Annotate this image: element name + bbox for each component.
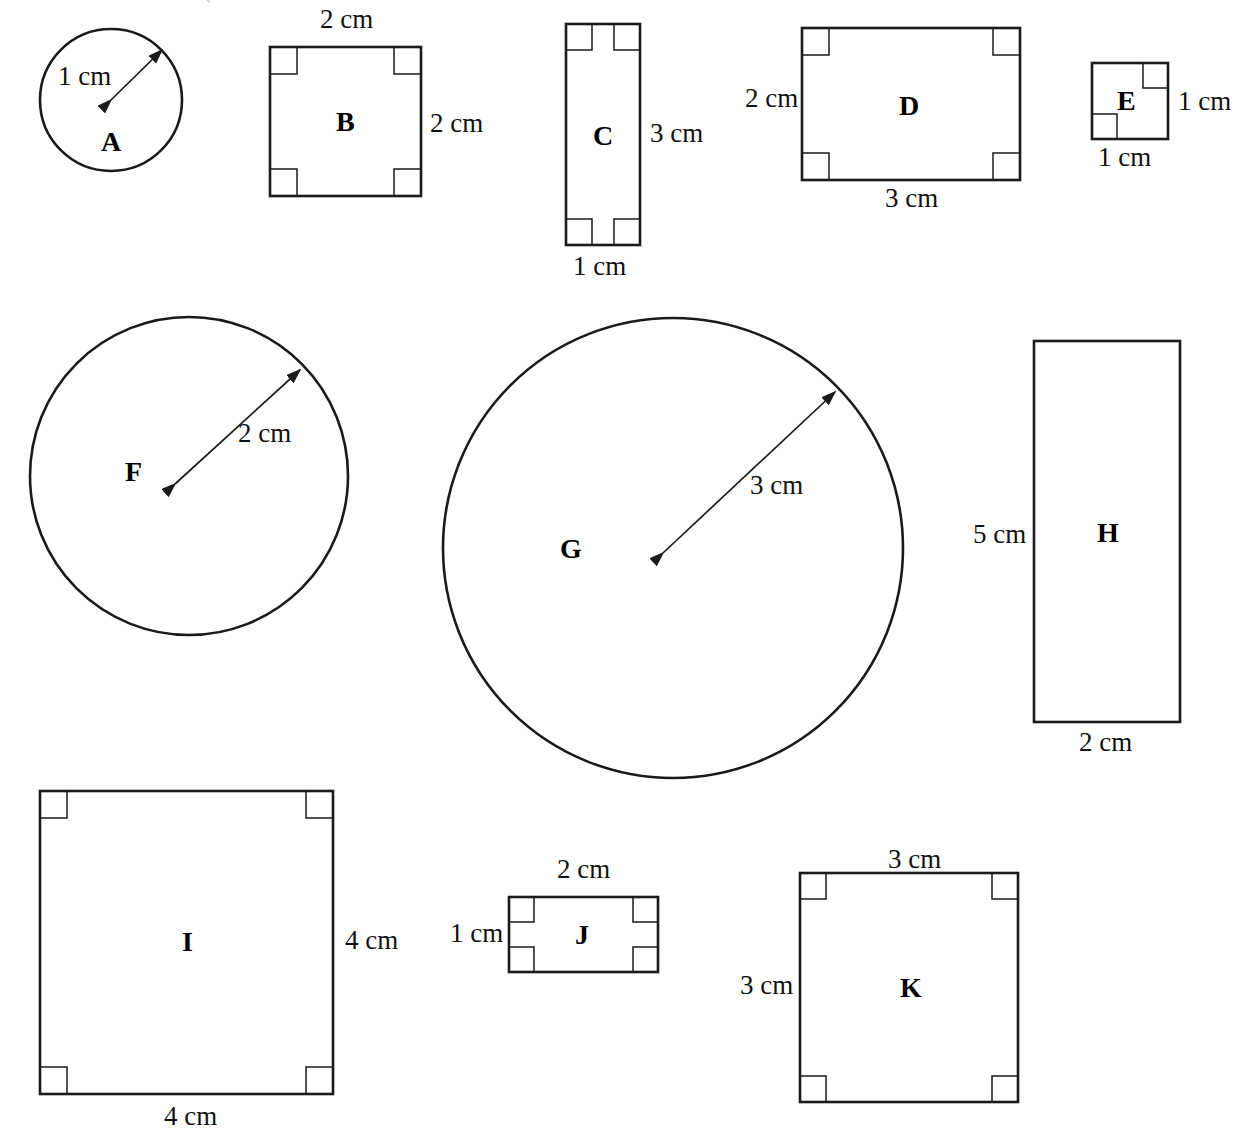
dimension-e-right: 1 cm xyxy=(1178,88,1231,115)
dimension-b-right: 2 cm xyxy=(430,110,483,137)
shape-label-b: B xyxy=(336,108,355,136)
shape-b-right-angle-tl xyxy=(270,47,297,74)
shape-label-g: G xyxy=(560,535,582,563)
shape-label-i: I xyxy=(182,928,193,956)
dimension-j-top: 2 cm xyxy=(557,856,610,883)
shape-c-right-angle-tr xyxy=(614,24,640,50)
shape-label-k: K xyxy=(900,974,922,1002)
shape-j-right-angle-bl xyxy=(509,947,534,972)
shape-j-right-angle-tr xyxy=(633,897,658,922)
shape-i-right-angle-br xyxy=(306,1067,333,1094)
dimension-k-left: 3 cm xyxy=(740,972,793,999)
shape-i-right-angle-tr xyxy=(306,791,333,818)
shape-d-right-angle-bl xyxy=(802,153,829,180)
shape-g-radius-arrow xyxy=(663,392,835,553)
shape-d-right-angle-br xyxy=(993,153,1020,180)
shape-k-right-angle-bl xyxy=(800,1076,826,1102)
shape-i-right-angle-bl xyxy=(40,1067,67,1094)
shape-label-a: A xyxy=(101,128,121,156)
dimension-c-bottom: 1 cm xyxy=(573,253,626,280)
shape-b-right-angle-tr xyxy=(394,47,421,74)
shape-figures-layer xyxy=(0,0,1247,1141)
shape-c-right-angle-bl xyxy=(566,219,592,245)
dimension-b-top: 2 cm xyxy=(320,6,373,33)
shape-i-right-angle-tl xyxy=(40,791,67,818)
shape-b-right-angle-br xyxy=(394,169,421,196)
dimension-h-bottom: 2 cm xyxy=(1079,729,1132,756)
shape-label-c: C xyxy=(593,122,613,150)
dimension-a-radius: 1 cm xyxy=(58,63,111,90)
shape-c-right-angle-br xyxy=(614,219,640,245)
shape-label-j: J xyxy=(575,921,589,949)
shape-e-right-angle-bl xyxy=(1092,114,1117,139)
dimension-j-left: 1 cm xyxy=(450,920,503,947)
shape-j-right-angle-br xyxy=(633,947,658,972)
shape-g-circle xyxy=(443,318,903,778)
shape-a-radius-arrow xyxy=(111,50,162,100)
shape-k-right-angle-tl xyxy=(800,873,826,899)
shape-d-right-angle-tl xyxy=(802,28,829,55)
dimension-d-left: 2 cm xyxy=(745,85,798,112)
shape-j-right-angle-tl xyxy=(509,897,534,922)
dimension-h-left: 5 cm xyxy=(973,521,1026,548)
dimension-i-bottom: 4 cm xyxy=(164,1103,217,1130)
shape-e-right-angle-tr xyxy=(1143,63,1168,88)
dimension-d-bottom: 3 cm xyxy=(885,185,938,212)
shape-c-right-angle-tl xyxy=(566,24,592,50)
shape-label-d: D xyxy=(899,92,919,120)
shape-f-circle xyxy=(30,317,348,635)
shape-k-right-angle-br xyxy=(992,1076,1018,1102)
shape-k-right-angle-tr xyxy=(992,873,1018,899)
dimension-k-top: 3 cm xyxy=(888,846,941,873)
shape-label-h: H xyxy=(1097,519,1119,547)
dimension-g-radius: 3 cm xyxy=(750,472,803,499)
shape-label-f: F xyxy=(125,458,142,486)
dimension-c-right: 3 cm xyxy=(650,120,703,147)
worksheet-canvas: ` xyxy=(0,0,1247,1141)
dimension-e-bottom: 1 cm xyxy=(1098,144,1151,171)
shape-label-e: E xyxy=(1117,87,1136,115)
shape-d-right-angle-tr xyxy=(993,28,1020,55)
dimension-i-right: 4 cm xyxy=(345,927,398,954)
shape-b-right-angle-bl xyxy=(270,169,297,196)
dimension-f-radius: 2 cm xyxy=(238,420,291,447)
